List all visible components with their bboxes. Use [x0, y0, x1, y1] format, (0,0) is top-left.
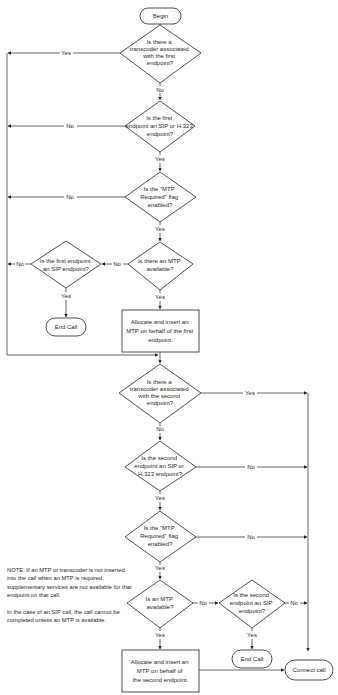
- decision-second-sip: Is the second endpoint an SIP endpoint?: [219, 580, 285, 628]
- d10-line: endpoint?: [239, 608, 266, 614]
- decision-mtp-required-second: Is the "MTP Required" flag enabled?: [125, 511, 196, 562]
- edge-label-d10-yes: Yes: [247, 632, 257, 638]
- edge-label-d6-no: No: [156, 426, 164, 432]
- edge-label-d4-no: No: [113, 261, 121, 267]
- process-allocate-mtp-second: Allocate and insert an MTP on behalf of …: [122, 650, 199, 692]
- edge-label-d7-no: No: [247, 464, 255, 470]
- edge-label-d4-yes: Yes: [155, 294, 165, 300]
- edge-label-d5-yes: Yes: [61, 293, 71, 299]
- d2-line: Is the first: [146, 115, 172, 121]
- d9-line: Is an MTP: [146, 596, 173, 602]
- d3-line: Required" flag: [140, 194, 178, 200]
- d6-line: with the second: [137, 393, 180, 399]
- node-begin: Begin: [140, 8, 181, 24]
- d6-line: transcoder associated: [130, 386, 189, 392]
- d4-line: Is there an MTP: [138, 258, 181, 264]
- d9-line: available?: [146, 604, 174, 610]
- edge-label-d8-yes: Yes: [155, 565, 165, 571]
- d6-line: Is there a: [147, 379, 173, 385]
- decision-mtp-available-second: Is an MTP available?: [127, 580, 193, 628]
- decision-second-sip-h323: Is the second endpoint an SIP or H.323 e…: [125, 441, 196, 491]
- edge-label-d9-yes: Yes: [155, 632, 165, 638]
- edge-label-d2-no: No: [66, 123, 74, 129]
- d5-line: an SIP endpoint?: [43, 266, 90, 272]
- note-text: NOTE: If an MTP or transcoder is not ins…: [7, 566, 132, 632]
- box2-line: Allocate and insert an: [131, 659, 189, 665]
- d8-line: Is the "MTP: [144, 525, 175, 531]
- end-call-label: End Call: [55, 324, 78, 330]
- edge-label-d9-no: No: [199, 600, 207, 606]
- d1-line: Is there a: [147, 39, 173, 45]
- node-connect-call: Connect call: [285, 660, 333, 680]
- d10-line: endpoint an SIP: [230, 600, 273, 606]
- box2-line: MTP on behalf of: [137, 668, 183, 674]
- d3-line: Is the "MTP: [144, 186, 175, 192]
- d10-line: Is the second: [233, 592, 269, 598]
- note-paragraph-2: In the case of an SIP call, the call can…: [7, 608, 132, 625]
- edge-label-d3-yes: Yes: [155, 226, 165, 232]
- d4-line: available?: [146, 266, 174, 272]
- d6-line: endpoint?: [147, 400, 174, 406]
- decision-first-sip: Is the first endpoint an SIP endpoint?: [31, 241, 101, 288]
- edge-label-d1-yes: Yes: [61, 50, 71, 56]
- d1-line: with the first: [142, 53, 175, 59]
- decision-mtp-available-first: Is there an MTP available?: [128, 242, 193, 290]
- d5-line: Is the first endpoint: [40, 258, 91, 264]
- d8-line: enabled?: [148, 541, 173, 547]
- edge-label-d3-no: No: [66, 194, 74, 200]
- edge-label-d5-no: No: [16, 261, 24, 267]
- svg-text:Allocate and insert an M: Allocate and insert an MTP on behalf of …: [131, 659, 190, 683]
- process-allocate-mtp-first: Allocate and insert an MTP on behalf of …: [122, 310, 199, 352]
- d7-line: Is the second: [141, 455, 177, 461]
- d2-line: endpoint?: [147, 131, 174, 137]
- decision-mtp-required-first: Is the "MTP Required" flag enabled?: [125, 172, 196, 222]
- decision-transcoder-first: Is there a transcoder associated with th…: [120, 25, 201, 83]
- connect-call-label: Connect call: [292, 667, 325, 673]
- node-end-call-second: End Call: [232, 650, 272, 668]
- decision-first-sip-h323: Is the first endpoint an SIP or H.323 en…: [125, 101, 195, 152]
- edge-label-d7-yes: Yes: [155, 495, 165, 501]
- edge-label-d2-yes: Yes: [155, 156, 165, 162]
- note-paragraph-1: NOTE: If an MTP or transcoder is not ins…: [7, 566, 132, 600]
- box1-line: Allocate and insert an: [131, 319, 189, 325]
- box1-line: MTP on behalf of the first: [126, 328, 193, 334]
- node-begin-label: Begin: [153, 13, 168, 19]
- end-call-label: End Call: [241, 656, 264, 662]
- svg-text:Is the second endpoint a: Is the second endpoint an SIP or H.323 e…: [134, 455, 185, 477]
- decision-transcoder-second: Is there a transcoder associated with th…: [119, 364, 201, 423]
- d2-line: endpoint an SIP or H.323: [126, 123, 194, 129]
- d1-line: transcoder associated: [130, 46, 189, 52]
- d8-line: Required" flag: [140, 533, 178, 539]
- box1-line: endpoint.: [148, 337, 173, 343]
- node-end-call-first: End Call: [46, 318, 86, 336]
- d7-line: H.323 endpoint?: [138, 471, 183, 477]
- d3-line: enabled?: [148, 202, 173, 208]
- box2-line: the second endpoint.: [133, 677, 189, 683]
- d1-line: endpoint?: [147, 60, 174, 66]
- edge-label-d6-yes: Yes: [245, 390, 255, 396]
- edge-label-d8-no: No: [247, 534, 255, 540]
- edge-label-d10-no: No: [290, 600, 298, 606]
- edge-label-d1-no: No: [156, 87, 164, 93]
- d7-line: endpoint an SIP or: [134, 463, 184, 469]
